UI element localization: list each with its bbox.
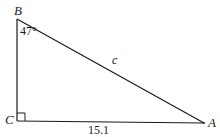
- angle-b-label: 47°: [20, 25, 37, 37]
- vertex-label-a: A: [208, 116, 216, 129]
- vertex-label-c: C: [5, 113, 14, 126]
- triangle-figure: [0, 0, 220, 137]
- right-angle-marker-icon: [17, 113, 25, 121]
- side-ab-hypotenuse: [17, 19, 204, 123]
- side-ca-length-label: 15.1: [88, 124, 109, 136]
- right-triangle-diagram: B 47° c C A 15.1: [0, 0, 220, 137]
- side-c-label: c: [112, 54, 117, 66]
- vertex-label-b: B: [14, 4, 22, 17]
- side-ca: [17, 121, 204, 123]
- vertex-a-dot: [203, 122, 205, 124]
